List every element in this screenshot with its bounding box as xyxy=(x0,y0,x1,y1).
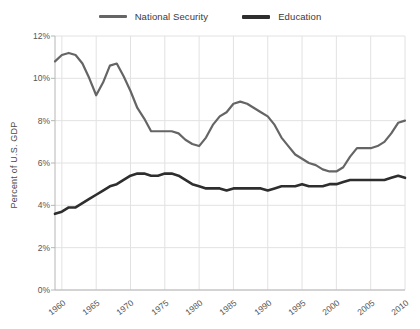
y-axis-tick-label: 6% xyxy=(20,158,50,168)
x-axis-tick-label: 1995 xyxy=(275,298,308,327)
x-axis-tick-label: 1985 xyxy=(206,298,239,327)
y-axis-tick-label: 12% xyxy=(20,31,50,41)
line-swatch-national-security-icon xyxy=(99,15,127,18)
series-line-national-security xyxy=(55,53,405,172)
y-axis-tick-labels: 0%2%4%6%8%10%12% xyxy=(16,36,50,290)
legend-label-education: Education xyxy=(278,11,321,22)
x-axis-tick-label: 1965 xyxy=(69,298,102,327)
line-chart-svg xyxy=(55,36,405,290)
x-axis-tick-label: 1980 xyxy=(172,298,205,327)
chart-page: National Security Education Percent of U… xyxy=(0,0,420,329)
x-axis-tick-label: 2000 xyxy=(309,298,342,327)
y-axis-tick-label: 4% xyxy=(20,200,50,210)
legend-item-national-security[interactable]: National Security xyxy=(99,11,209,22)
plot-area xyxy=(55,36,405,290)
x-axis-tick-label: 2005 xyxy=(343,298,376,327)
legend-item-education[interactable]: Education xyxy=(242,11,321,22)
x-axis-tick-label: 1990 xyxy=(240,298,273,327)
x-axis-tick-label: 2010 xyxy=(377,298,410,327)
line-swatch-education-icon xyxy=(242,15,270,19)
series-line-education xyxy=(55,174,405,214)
y-axis-tick-label: 8% xyxy=(20,116,50,126)
y-axis-tick-label: 10% xyxy=(20,73,50,83)
y-axis-tick-label: 2% xyxy=(20,243,50,253)
data-series xyxy=(55,53,405,214)
y-axis-tick-label: 0% xyxy=(20,285,50,295)
x-axis-tick-label: 1975 xyxy=(137,298,170,327)
chart-legend: National Security Education xyxy=(0,11,420,22)
legend-label-national-security: National Security xyxy=(135,11,209,22)
x-axis-tick-label: 1960 xyxy=(34,298,67,327)
x-axis-tick-label: 1970 xyxy=(103,298,136,327)
x-axis-tick-labels: 1960196519701975198019851990199520002005… xyxy=(55,292,405,328)
